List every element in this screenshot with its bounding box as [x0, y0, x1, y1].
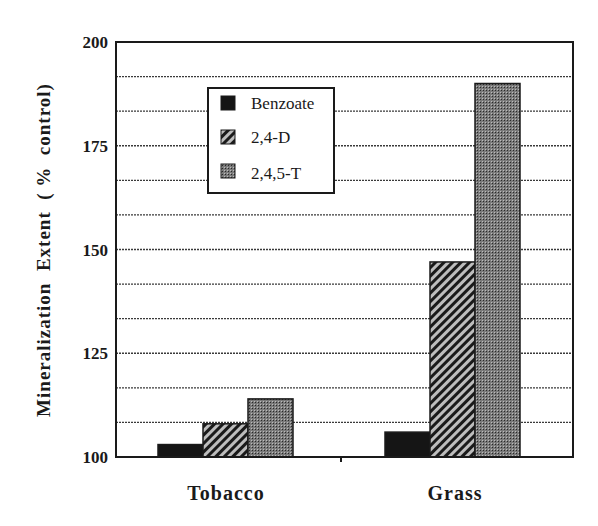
y-tick-label: 150: [83, 241, 109, 260]
y-tick-label: 175: [83, 137, 109, 156]
y-tick-label: 100: [83, 448, 109, 467]
y-axis-ticks: 100125150175200: [83, 33, 109, 467]
x-category-grass: Grass: [428, 482, 483, 504]
bar-grass-245t: [475, 84, 520, 458]
y-tick-label: 200: [83, 33, 109, 52]
legend-swatch-245t: [221, 164, 235, 178]
legend: Benzoate 2,4-D 2,4,5-T: [208, 88, 334, 193]
bar-grass-24d: [430, 262, 475, 457]
y-tick-label: 125: [83, 344, 109, 363]
y-axis-label: Mineralization Extent ( % control): [33, 83, 55, 417]
legend-swatch-24d: [221, 130, 235, 144]
legend-swatch-benzoate: [221, 96, 235, 110]
bar-chart: 100125150175200 Mineralization Extent ( …: [0, 0, 598, 526]
bar-tobacco-24d: [203, 424, 248, 457]
bar-grass-benzoate: [385, 432, 430, 457]
bar-tobacco-benzoate: [158, 445, 203, 457]
legend-label-benzoate: Benzoate: [251, 94, 314, 113]
x-category-tobacco: Tobacco: [187, 482, 264, 504]
legend-label-245t: 2,4,5-T: [251, 164, 302, 183]
legend-label-24d: 2,4-D: [251, 128, 290, 147]
bar-tobacco-245t: [248, 399, 293, 457]
